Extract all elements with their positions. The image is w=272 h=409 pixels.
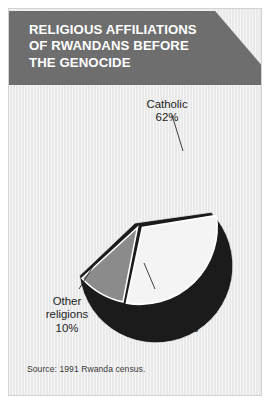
pie-label-other-religions: Other religions 10% <box>19 295 115 335</box>
pie-chart-svg <box>9 85 262 396</box>
pie-chart: Catholic 62% Other religions 10% Other C… <box>9 85 262 396</box>
infographic-root: RELIGIOUS AFFILIATIONS OF RWANDANS BEFOR… <box>0 0 272 409</box>
source-note: Source: 1991 Rwanda census. <box>27 364 145 375</box>
pie-label-other-christian: Other Christian 28% <box>134 295 240 335</box>
pie-label-catholic: Catholic 62% <box>119 98 215 125</box>
page-title: RELIGIOUS AFFILIATIONS OF RWANDANS BEFOR… <box>29 22 244 71</box>
infographic-card: RELIGIOUS AFFILIATIONS OF RWANDANS BEFOR… <box>8 8 262 396</box>
